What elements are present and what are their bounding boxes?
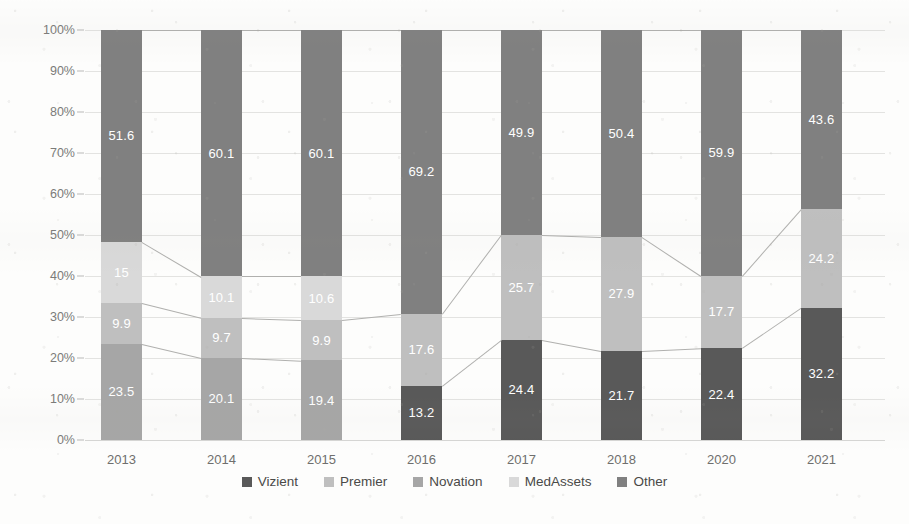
legend-label: Vizient [258, 474, 298, 489]
segment-connector-line [142, 344, 201, 359]
x-axis-tick-label: 2020 [677, 452, 767, 467]
bar-segment-medassets[interactable]: 10.6 [301, 276, 342, 319]
stacked-bar[interactable]: 23.59.91551.6 [101, 30, 142, 440]
bar-segment-vizient[interactable]: 22.4 [701, 348, 742, 440]
bar-segment-premier[interactable]: 24.2 [801, 209, 842, 308]
bar-segment-value-label: 10.1 [208, 290, 234, 305]
bar-segment-vizient[interactable]: 21.7 [601, 351, 642, 440]
segment-connector-line [641, 237, 701, 277]
bar-segment-novation[interactable]: 20.1 [201, 358, 242, 440]
bar-segment-value-label: 21.7 [608, 388, 634, 403]
y-axis-tick-mark [77, 358, 84, 359]
bar-segment-premier[interactable]: 9.9 [301, 320, 342, 361]
legend-label: Other [633, 474, 667, 489]
stacked-bar[interactable]: 21.727.950.4 [601, 30, 642, 440]
legend-swatch-icon [617, 477, 627, 487]
bar-segment-value-label: 15 [114, 265, 129, 280]
bar-segment-value-label: 9.9 [112, 316, 131, 331]
y-axis-tick-label: 50% [19, 228, 75, 242]
segment-connector-line [342, 30, 401, 31]
y-axis-tick-label: 40% [19, 269, 75, 283]
bar-segment-other[interactable]: 51.6 [101, 30, 142, 242]
bar-segment-value-label: 25.7 [508, 280, 534, 295]
y-axis-tick-mark [77, 30, 84, 31]
chart-legend: VizientPremierNovationMedAssetsOther [0, 474, 909, 489]
bar-segment-vizient[interactable]: 13.2 [401, 386, 442, 440]
bar-segment-value-label: 32.2 [808, 366, 834, 381]
y-axis-tick-label: 80% [19, 105, 75, 119]
bar-segment-premier[interactable]: 17.6 [401, 314, 442, 386]
bar-segment-vizient[interactable]: 32.2 [801, 308, 842, 440]
segment-connector-line [141, 242, 201, 278]
y-axis-tick-mark [77, 276, 84, 277]
legend-label: Premier [340, 474, 387, 489]
y-axis-tick-label: 0% [19, 433, 75, 447]
x-axis-tick-label: 2015 [277, 452, 367, 467]
bar-segment-vizient[interactable]: 24.4 [501, 340, 542, 440]
bar-segment-other[interactable]: 60.1 [201, 30, 242, 276]
segment-connector-line [742, 308, 802, 349]
stacked-bar[interactable]: 22.417.759.9 [701, 30, 742, 440]
segment-connector-line [642, 348, 701, 352]
legend-swatch-icon [324, 477, 334, 487]
bar-segment-other[interactable]: 43.6 [801, 30, 842, 209]
x-axis-tick-label: 2021 [777, 452, 867, 467]
bar-segment-premier[interactable]: 17.7 [701, 276, 742, 349]
bar-segment-novation[interactable]: 19.4 [301, 360, 342, 440]
x-axis-tick-label: 2013 [77, 452, 167, 467]
y-axis-tick-label: 60% [19, 187, 75, 201]
legend-item-premier[interactable]: Premier [324, 474, 387, 489]
bar-segment-value-label: 23.5 [108, 384, 134, 399]
legend-label: MedAssets [525, 474, 592, 489]
bar-segment-value-label: 17.6 [408, 342, 434, 357]
bar-segment-other[interactable]: 69.2 [401, 30, 442, 314]
legend-swatch-icon [413, 477, 423, 487]
bar-segment-medassets[interactable]: 10.1 [201, 276, 242, 317]
bar-segment-value-label: 24.4 [508, 382, 534, 397]
bar-segment-other[interactable]: 59.9 [701, 30, 742, 276]
bar-segment-value-label: 60.1 [308, 146, 334, 161]
stacked-bar[interactable]: 13.217.669.2 [401, 30, 442, 440]
y-axis-tick-mark [77, 399, 84, 400]
legend-swatch-icon [509, 477, 519, 487]
segment-connector-line [242, 276, 301, 277]
bar-segment-value-label: 49.9 [508, 125, 534, 140]
bar-segment-other[interactable]: 60.1 [301, 30, 342, 276]
bar-segment-value-label: 24.2 [808, 251, 834, 266]
legend-item-medassets[interactable]: MedAssets [509, 474, 592, 489]
segment-connector-line [242, 30, 301, 31]
y-axis-tick-mark [77, 317, 84, 318]
bar-segment-premier[interactable]: 9.7 [201, 318, 242, 358]
segment-connector-line [642, 30, 701, 31]
legend-item-other[interactable]: Other [617, 474, 667, 489]
stacked-bar[interactable]: 20.19.710.160.1 [201, 30, 242, 440]
segment-connector-line [742, 30, 801, 31]
y-axis-tick-mark [77, 235, 84, 236]
y-axis-tick-mark [77, 71, 84, 72]
bar-segment-value-label: 17.7 [708, 304, 734, 319]
bar-segment-premier[interactable]: 27.9 [601, 237, 642, 351]
y-axis-tick-label: 30% [19, 310, 75, 324]
segment-connector-line [742, 209, 802, 276]
bar-segment-premier[interactable]: 25.7 [501, 235, 542, 340]
legend-item-vizient[interactable]: Vizient [242, 474, 298, 489]
bar-segment-value-label: 9.7 [212, 330, 231, 345]
segment-connector-line [142, 30, 201, 31]
segment-connector-line [442, 340, 502, 387]
bar-segment-value-label: 9.9 [312, 333, 331, 348]
bar-segment-premier[interactable]: 9.9 [101, 303, 142, 344]
bar-segment-novation[interactable]: 23.5 [101, 344, 142, 440]
bar-segment-other[interactable]: 50.4 [601, 30, 642, 237]
bar-segment-value-label: 60.1 [208, 146, 234, 161]
bar-segment-value-label: 59.9 [708, 145, 734, 160]
bar-segment-medassets[interactable]: 15 [101, 242, 142, 304]
stacked-bar[interactable]: 24.425.749.9 [501, 30, 542, 440]
y-axis-tick-label: 90% [19, 64, 75, 78]
stacked-bar[interactable]: 19.49.910.660.1 [301, 30, 342, 440]
legend-item-novation[interactable]: Novation [413, 474, 482, 489]
bar-segment-other[interactable]: 49.9 [501, 30, 542, 235]
stacked-bar[interactable]: 32.224.243.6 [801, 30, 842, 440]
y-axis-tick-mark [77, 153, 84, 154]
plot-area: 23.59.91551.620.19.710.160.119.49.910.66… [85, 30, 885, 440]
bar-segment-value-label: 10.6 [308, 291, 334, 306]
